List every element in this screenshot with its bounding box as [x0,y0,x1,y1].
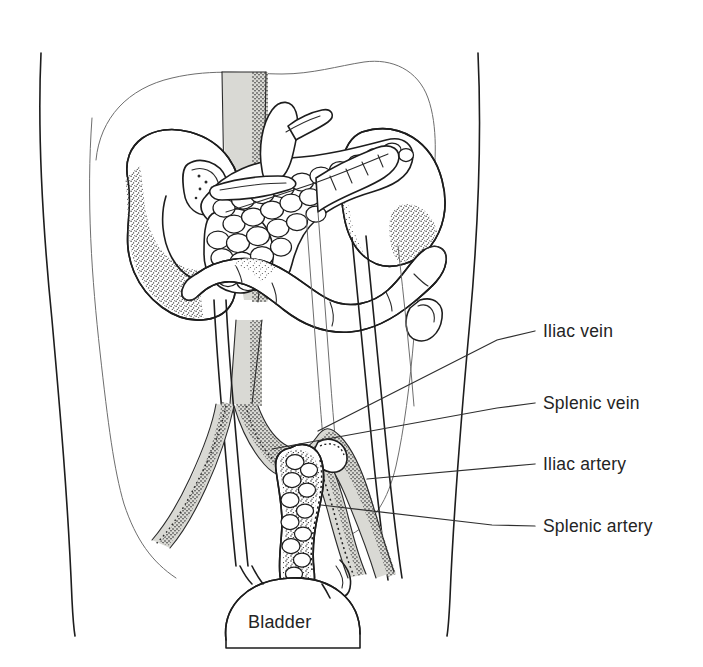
bladder-label: Bladder [248,612,311,632]
iliac-bifurcation [152,402,396,578]
bladder-dome: Bladder [226,578,360,648]
aorta-lower-segment [230,320,262,406]
leader-iliac-artery [367,464,535,479]
descending-colon [406,299,442,341]
label-iliac-vein: Iliac vein [543,321,613,341]
label-splenic-artery: Splenic artery [543,516,653,536]
illustration-canvas: Bladder Iliac vein Splenic vein Iliac ar… [0,0,703,667]
graft-pancreas [276,444,324,600]
leader-iliac-vein [318,331,535,431]
labels-group: Iliac vein Splenic vein Iliac artery Spl… [543,321,653,536]
torso-right-flank [447,53,480,636]
label-splenic-vein: Splenic vein [543,393,640,413]
label-iliac-artery: Iliac artery [543,454,626,474]
anatomical-figure: Bladder Iliac vein Splenic vein Iliac ar… [0,0,703,667]
